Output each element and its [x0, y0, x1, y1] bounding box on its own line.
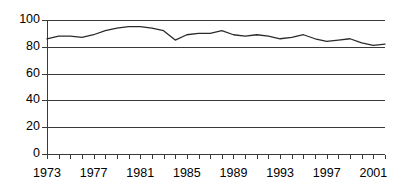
x-axis-tick-label: 1973: [27, 166, 67, 180]
x-axis-tick: [233, 155, 234, 159]
x-axis-tick: [70, 155, 71, 159]
gridline: [47, 47, 385, 48]
x-axis-tick: [129, 155, 130, 159]
y-axis-tick-label: 20: [6, 120, 40, 132]
y-axis-tick-label: 60: [6, 67, 40, 79]
y-axis-tick-label: 80: [6, 40, 40, 52]
x-axis-tick: [385, 155, 386, 159]
gridline: [47, 74, 385, 75]
y-axis-tick: [42, 74, 47, 75]
x-axis-tick-label: 1989: [213, 166, 253, 180]
x-axis-tick: [152, 155, 153, 159]
x-axis-tick: [59, 155, 60, 159]
y-axis-tick: [42, 47, 47, 48]
x-axis-tick-label: 1993: [260, 166, 300, 180]
x-axis-tick: [362, 155, 363, 159]
chart-figure: 020406080100 197319771981198519891993199…: [0, 0, 405, 195]
gridline: [47, 20, 385, 21]
x-axis-tick: [245, 155, 246, 159]
x-axis-tick: [222, 155, 223, 159]
x-axis-tick: [292, 155, 293, 159]
x-axis-tick: [268, 155, 269, 159]
x-axis-tick: [373, 155, 374, 159]
x-axis-tick: [315, 155, 316, 159]
gridline: [47, 100, 385, 101]
x-axis-tick: [117, 155, 118, 159]
x-axis-tick: [327, 155, 328, 159]
x-axis-tick: [164, 155, 165, 159]
y-axis-tick-label: 100: [6, 13, 40, 25]
x-axis-tick: [199, 155, 200, 159]
x-axis-tick: [105, 155, 106, 159]
y-axis-tick: [42, 100, 47, 101]
x-axis-tick: [175, 155, 176, 159]
x-axis-tick: [350, 155, 351, 159]
x-axis-tick: [47, 155, 48, 159]
x-axis-tick-label: 2001: [353, 166, 393, 180]
x-axis-tick-label: 1997: [307, 166, 347, 180]
x-axis-tick-label: 1985: [167, 166, 207, 180]
x-axis-tick: [303, 155, 304, 159]
y-axis-tick: [42, 127, 47, 128]
x-axis-tick: [210, 155, 211, 159]
x-axis-tick-label: 1981: [120, 166, 160, 180]
x-axis-tick: [338, 155, 339, 159]
y-axis-tick-label: 0: [6, 147, 40, 159]
x-axis-tick: [187, 155, 188, 159]
plot-area: [47, 20, 385, 154]
x-axis-tick: [280, 155, 281, 159]
gridline: [47, 154, 385, 155]
x-axis-tick: [140, 155, 141, 159]
x-axis-tick-label: 1977: [74, 166, 114, 180]
x-axis-tick: [82, 155, 83, 159]
y-axis-tick-label: 40: [6, 93, 40, 105]
y-axis-tick: [42, 20, 47, 21]
x-axis-tick: [94, 155, 95, 159]
x-axis-tick: [257, 155, 258, 159]
gridline: [47, 127, 385, 128]
